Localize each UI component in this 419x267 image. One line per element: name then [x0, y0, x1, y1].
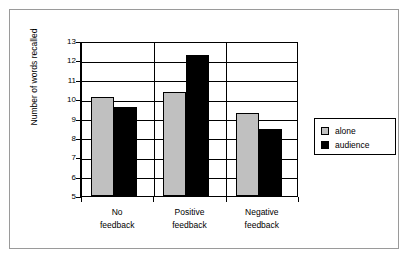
x-axis-label-line: feedback: [150, 219, 230, 232]
x-axis-labels: NofeedbackPositivefeedbackNegativefeedba…: [81, 206, 298, 246]
bar-audience-2[interactable]: [259, 129, 282, 196]
y-tick-label: 10: [67, 96, 76, 104]
y-tick-label: 12: [67, 57, 76, 65]
legend-item-alone[interactable]: alone: [321, 124, 395, 138]
y-tick-mark: [76, 178, 80, 179]
plot-area: [81, 42, 298, 197]
x-axis-label-line: Positive: [150, 206, 230, 219]
x-axis-label-line: No: [77, 206, 157, 219]
x-axis-label-line: feedback: [77, 219, 157, 232]
y-tick-mark: [76, 100, 80, 101]
y-tick-mark: [76, 42, 80, 43]
x-axis-label: Nofeedback: [77, 206, 157, 232]
y-axis-labels: 5678910111213: [10, 10, 80, 230]
group-separator: [226, 43, 227, 196]
x-axis-ticks: [81, 197, 299, 203]
x-axis-label: Positivefeedback: [150, 206, 230, 232]
legend-swatch-alone: [321, 127, 329, 135]
bar-audience-1[interactable]: [186, 55, 209, 196]
group-separator: [154, 43, 155, 196]
x-axis-label: Negativefeedback: [222, 206, 302, 232]
legend-label-alone: alone: [335, 127, 356, 136]
bar-audience-0[interactable]: [114, 107, 137, 196]
legend-label-audience: audience: [335, 141, 370, 150]
bar-alone-0[interactable]: [91, 97, 114, 196]
x-tick-mark: [226, 197, 227, 202]
y-tick-label: 13: [67, 38, 76, 46]
y-tick-mark: [76, 197, 80, 198]
legend-item-audience[interactable]: audience: [321, 138, 395, 152]
legend[interactable]: alone audience: [314, 118, 396, 155]
x-axis-label-line: feedback: [222, 219, 302, 232]
bar-alone-2[interactable]: [236, 113, 259, 196]
x-tick-mark: [153, 197, 154, 202]
x-axis-label-line: Negative: [222, 206, 302, 219]
chart-frame: Number of words recalled 5678910111213 N…: [9, 9, 399, 249]
y-tick-mark: [76, 81, 80, 82]
legend-swatch-audience: [321, 141, 329, 149]
bar-alone-1[interactable]: [163, 92, 186, 196]
y-tick-mark: [76, 158, 80, 159]
y-tick-mark: [76, 120, 80, 121]
y-tick-mark: [76, 61, 80, 62]
y-tick-label: 11: [68, 77, 76, 85]
x-tick-mark: [81, 197, 82, 202]
x-tick-mark: [298, 197, 299, 202]
y-tick-mark: [76, 139, 80, 140]
